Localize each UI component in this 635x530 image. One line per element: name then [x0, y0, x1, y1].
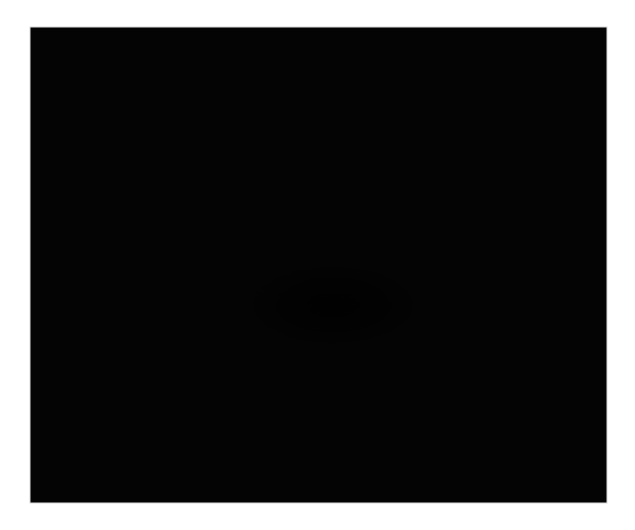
spacetime-curvature-figure: Gravitational lensing: light rays deflec… — [0, 0, 635, 530]
gravity-well-shadow — [241, 261, 425, 349]
spacetime-scene — [0, 0, 635, 530]
